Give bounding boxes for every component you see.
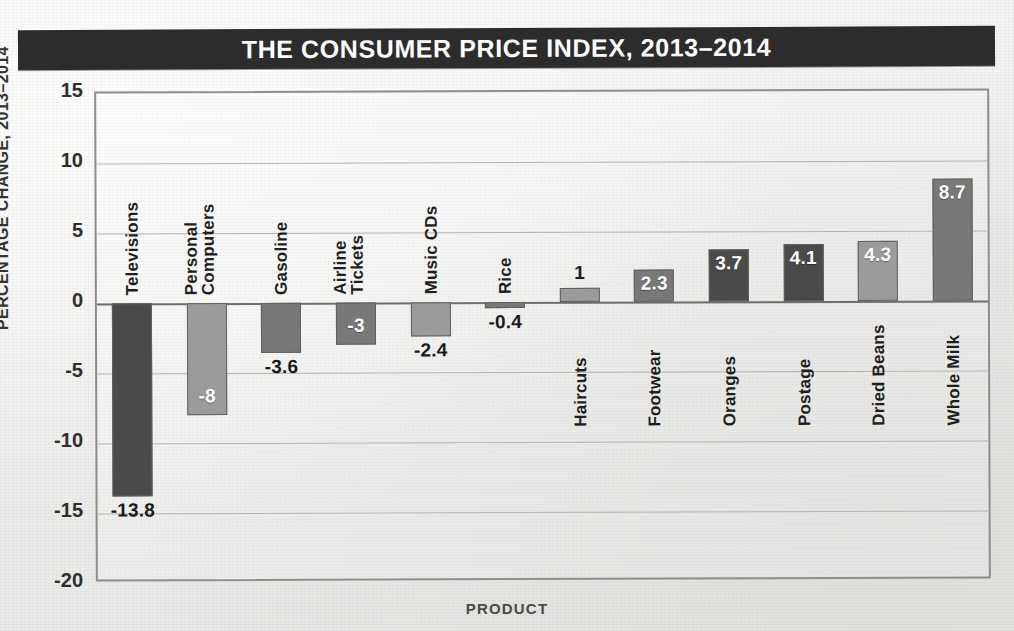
bar-category-label: Gasoline [273, 221, 291, 294]
x-axis-label: PRODUCT [0, 600, 1014, 617]
y-axis-tick-neg15: -15 [39, 499, 83, 522]
category-label-line: Computers [200, 204, 218, 296]
bar-category-label: Oranges [721, 356, 739, 426]
y-axis-tick-15: 15 [39, 79, 83, 102]
gridline [97, 370, 988, 374]
category-label-line: Tickets [349, 235, 367, 295]
bar[interactable] [112, 303, 153, 496]
bar-value-label: 1 [537, 262, 623, 284]
category-label-line: Gasoline [273, 221, 291, 294]
zero-line [97, 300, 988, 305]
bar-value-label: -3 [313, 315, 399, 337]
category-label-line: Televisions [124, 202, 142, 296]
bar-group[interactable]: -13.8Televisions [111, 93, 153, 579]
bar-value-label: 4.1 [760, 247, 846, 269]
bar-value-label: -8 [164, 385, 250, 407]
bar-group[interactable]: -0.4Rice [484, 92, 526, 578]
bar-group[interactable]: -8PersonalComputers [186, 93, 228, 579]
category-label-line: Rice [497, 257, 515, 294]
bar-category-label: Music CDs [422, 206, 440, 295]
y-axis-tick-neg20: -20 [39, 569, 83, 592]
bar-value-label: -2.4 [388, 339, 474, 361]
bar-category-label: Haircuts [572, 357, 590, 427]
bar-category-label: PersonalComputers [182, 204, 217, 296]
category-label-line: Personal [182, 204, 200, 296]
category-label-line: Whole Milk [945, 335, 963, 426]
bar-value-label: 2.3 [611, 272, 697, 294]
bar-value-label: 4.3 [835, 243, 921, 265]
bar-group[interactable]: 4.3Dried Beans [857, 91, 899, 577]
bar-category-label: Footwear [646, 349, 664, 426]
bar-chart: PERCENTAGE CHANGE, 2013–2014 PRODUCT 151… [0, 0, 1014, 631]
category-label-line: Footwear [646, 349, 664, 426]
plot-area: -13.8Televisions-8PersonalComputers-3.6G… [94, 88, 991, 581]
bar-value-label: 8.7 [909, 182, 995, 204]
bar-group[interactable]: -3AirlineTickets [335, 93, 377, 579]
bar-group[interactable]: 4.1Postage [783, 91, 825, 577]
category-label-line: Dried Beans [870, 324, 888, 425]
bar-category-label: Dried Beans [870, 324, 888, 425]
bar-group[interactable]: 2.3Footwear [634, 92, 676, 578]
bar[interactable] [411, 302, 451, 336]
bar-group[interactable]: 1Haircuts [559, 92, 601, 578]
bar-value-label: -3.6 [239, 356, 325, 378]
bar-category-label: AirlineTickets [332, 235, 367, 295]
gridline [97, 230, 988, 234]
y-axis-tick-10: 10 [39, 149, 83, 172]
category-label-line: Airline [332, 235, 350, 295]
bar-group[interactable]: -3.6Gasoline [261, 93, 303, 579]
bar-group[interactable]: -2.4Music CDs [410, 92, 452, 578]
bar-value-label: -13.8 [90, 499, 176, 521]
bar-group[interactable]: 8.7Whole Milk [932, 90, 974, 576]
y-axis-tick-0: 0 [39, 289, 83, 312]
bar-category-label: Whole Milk [945, 335, 963, 426]
gridlines [96, 90, 987, 93]
bar-value-label: 3.7 [686, 252, 772, 274]
category-label-line: Oranges [721, 356, 739, 426]
bar-value-label: -0.4 [462, 311, 548, 333]
y-axis-tick-5: 5 [39, 219, 83, 242]
category-label-line: Postage [796, 359, 814, 427]
bar[interactable] [261, 303, 301, 354]
y-axis-tick-neg10: -10 [39, 429, 83, 452]
bar-group[interactable]: 3.7Oranges [708, 91, 750, 577]
gridline [98, 510, 989, 514]
bar-category-label: Postage [796, 359, 814, 427]
bar-category-label: Televisions [124, 202, 142, 296]
category-label-line: Haircuts [572, 357, 590, 427]
y-axis-tick-neg5: -5 [39, 359, 83, 382]
gridline [96, 160, 987, 164]
bar[interactable] [560, 288, 600, 302]
y-axis-label: PERCENTAGE CHANGE, 2013–2014 [0, 46, 12, 330]
category-label-line: Music CDs [422, 206, 440, 295]
bars-layer: -13.8Televisions-8PersonalComputers-3.6G… [96, 90, 987, 93]
bar[interactable] [485, 302, 525, 308]
gridline [97, 440, 988, 444]
bar-category-label: Rice [497, 257, 515, 294]
